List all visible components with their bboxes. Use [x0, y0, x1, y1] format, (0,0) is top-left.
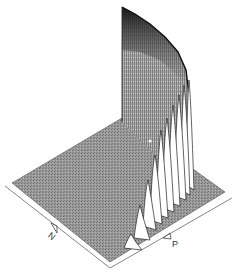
axis-label-p: P — [172, 240, 178, 249]
surface-plot — [0, 0, 236, 272]
surface-floor — [12, 118, 225, 262]
axis-p-arrow-icon — [163, 233, 171, 239]
